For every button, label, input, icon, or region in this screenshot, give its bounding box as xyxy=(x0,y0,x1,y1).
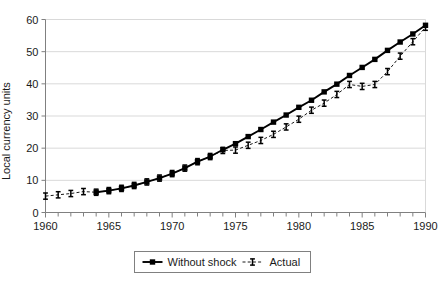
x-tick-label: 1980 xyxy=(287,220,311,232)
without-shock-marker xyxy=(372,57,377,62)
series-without-shock xyxy=(93,23,428,195)
legend-label-actual: Actual xyxy=(270,256,301,268)
without-shock-marker xyxy=(309,98,314,103)
without-shock-marker xyxy=(359,65,364,70)
actual-marker xyxy=(322,100,327,106)
actual-marker xyxy=(258,137,263,143)
actual-line xyxy=(46,27,426,196)
without-shock-marker xyxy=(131,183,136,188)
y-tick-label: 60 xyxy=(26,14,38,26)
without-shock-marker xyxy=(144,179,149,184)
without-shock-marker xyxy=(321,89,326,94)
y-tick-label: 50 xyxy=(26,46,38,58)
y-tick-label: 10 xyxy=(26,174,38,186)
without-shock-marker xyxy=(245,134,250,139)
without-shock-marker xyxy=(283,112,288,117)
without-shock-marker xyxy=(410,31,415,36)
series-actual xyxy=(43,24,428,199)
x-tick-label: 1985 xyxy=(350,220,374,232)
x-tick-label: 1970 xyxy=(160,220,184,232)
without-shock-line xyxy=(96,25,425,192)
without-shock-marker xyxy=(271,119,276,124)
without-shock-marker xyxy=(296,105,301,110)
actual-marker xyxy=(284,124,289,130)
without-shock-marker xyxy=(157,175,162,180)
actual-marker xyxy=(334,91,339,97)
without-shock-marker xyxy=(195,159,200,164)
actual-marker xyxy=(347,81,352,87)
x-tick-label: 1990 xyxy=(413,220,437,232)
without-shock-marker xyxy=(207,154,212,159)
actual-marker xyxy=(309,107,314,113)
actual-marker xyxy=(296,116,301,122)
y-tick-label: 20 xyxy=(26,142,38,154)
x-tick-label: 1965 xyxy=(97,220,121,232)
without-shock-marker xyxy=(93,190,98,195)
y-axis-tick-labels: 0102030405060 xyxy=(26,14,38,219)
x-axis-ticks xyxy=(42,20,426,218)
chart-container: Local currency units 0102030405060 19601… xyxy=(0,0,445,287)
actual-marker xyxy=(271,131,276,137)
x-tick-label: 1960 xyxy=(33,220,57,232)
without-shock-marker xyxy=(169,171,174,176)
chart-legend: Without shockActual xyxy=(135,252,311,273)
y-tick-label: 0 xyxy=(32,207,38,219)
actual-marker xyxy=(410,39,415,45)
without-shock-marker xyxy=(182,165,187,170)
legend-label-without-shock: Without shock xyxy=(168,256,238,268)
without-shock-marker xyxy=(233,141,238,146)
y-tick-label: 40 xyxy=(26,78,38,90)
legend-marker-square xyxy=(150,259,155,264)
without-shock-marker xyxy=(220,147,225,152)
without-shock-marker xyxy=(106,188,111,193)
without-shock-marker xyxy=(347,73,352,78)
without-shock-marker xyxy=(119,186,124,191)
without-shock-marker xyxy=(397,39,402,44)
without-shock-marker xyxy=(423,23,428,28)
without-shock-marker xyxy=(258,127,263,132)
y-tick-label: 30 xyxy=(26,110,38,122)
without-shock-marker xyxy=(334,81,339,86)
chart-plot-area: 0102030405060 19601965197019751980198519… xyxy=(0,0,445,287)
x-axis-tick-labels: 1960196519701975198019851990 xyxy=(33,220,437,232)
x-tick-label: 1975 xyxy=(223,220,247,232)
actual-marker xyxy=(246,142,251,148)
without-shock-marker xyxy=(385,48,390,53)
gridlines-group xyxy=(46,20,426,181)
